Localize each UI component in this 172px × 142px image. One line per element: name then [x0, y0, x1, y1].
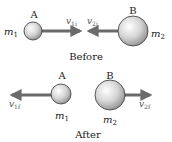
ball-a-label-after: A [57, 70, 66, 81]
velocity-1i-label: v1i [66, 16, 77, 27]
after-panel: A v1f m1 B v2f m2 After [9, 70, 151, 140]
ball-a [24, 22, 42, 40]
velocity-1f-label: v1f [9, 99, 21, 110]
ball-b-label-after: B [106, 70, 113, 81]
ball-a-after [51, 84, 71, 104]
ball-a-label: A [29, 9, 38, 20]
before-caption: Before [69, 51, 103, 62]
ball-b-after [95, 80, 125, 110]
mass-2-label-after: m2 [103, 114, 117, 127]
velocity-2f-label: v2f [139, 99, 151, 110]
ball-b [118, 16, 148, 46]
after-caption: After [74, 129, 101, 140]
ball-b-label: B [129, 5, 136, 16]
before-panel: A m1 v1i v2i B m2 Before [4, 5, 165, 62]
velocity-2i-label: v2i [87, 16, 98, 27]
mass-2-label: m2 [151, 28, 165, 41]
collision-diagram: A m1 v1i v2i B m2 Before A v1f m1 B v2f … [0, 0, 172, 142]
mass-1-label-after: m1 [55, 110, 69, 123]
mass-1-label: m1 [4, 26, 18, 39]
